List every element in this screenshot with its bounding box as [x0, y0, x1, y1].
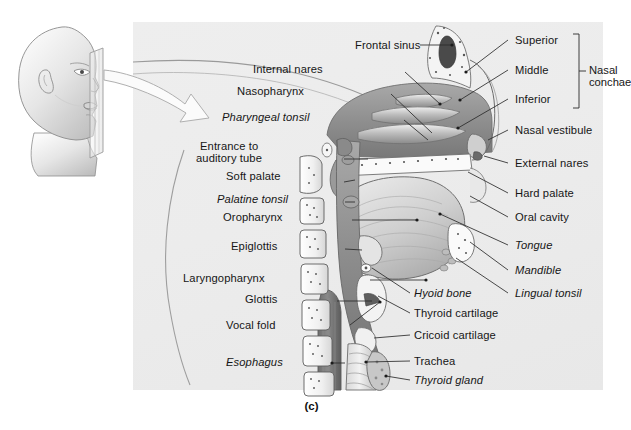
- label-esophagus: Esophagus: [226, 356, 283, 369]
- label-palatine-tonsil: Palatine tonsil: [217, 193, 288, 206]
- label-hyoid-bone: Hyoid bone: [414, 287, 472, 300]
- label-epiglottis: Epiglottis: [231, 240, 277, 253]
- section-panel-background: [133, 22, 603, 390]
- label-trachea: Trachea: [414, 355, 455, 368]
- label-superior: Superior: [515, 34, 558, 47]
- label-entrance-to-auditory-tube-line2: auditory tube: [196, 152, 262, 165]
- label-nasal-vestibule: Nasal vestibule: [515, 124, 592, 137]
- label-external-nares: External nares: [515, 157, 589, 170]
- label-cricoid-cartilage: Cricoid cartilage: [414, 329, 496, 342]
- label-internal-nares: Internal nares: [253, 63, 323, 76]
- label-thyroid-gland: Thyroid gland: [414, 374, 483, 387]
- sagittal-section-plane: [90, 48, 103, 158]
- label-frontal-sinus: Frontal sinus: [355, 39, 420, 52]
- label-oropharynx: Oropharynx: [223, 211, 282, 224]
- label-laryngopharynx: Laryngopharynx: [183, 272, 265, 285]
- label-middle: Middle: [515, 64, 549, 77]
- label-soft-palate: Soft palate: [226, 170, 281, 183]
- label-lingual-tonsil: Lingual tonsil: [515, 287, 582, 300]
- label-tongue: Tongue: [515, 239, 553, 252]
- label-oral-cavity: Oral cavity: [515, 211, 569, 224]
- label-vocal-fold: Vocal fold: [226, 319, 276, 332]
- label-nasal-conchae-line1: Nasal: [589, 64, 618, 77]
- label-nasal-conchae-line2: conchae: [589, 76, 631, 89]
- label-mandible: Mandible: [515, 264, 561, 277]
- figure-caption: (c): [0, 400, 623, 412]
- label-thyroid-cartilage: Thyroid cartilage: [414, 307, 498, 320]
- label-hard-palate: Hard palate: [515, 187, 574, 200]
- label-nasopharynx: Nasopharynx: [237, 85, 304, 98]
- label-pharyngeal-tonsil: Pharyngeal tonsil: [222, 111, 310, 124]
- label-glottis: Glottis: [245, 293, 277, 306]
- label-inferior: Inferior: [515, 93, 551, 106]
- label-entrance-to-auditory-tube-line1: Entrance to: [200, 140, 258, 153]
